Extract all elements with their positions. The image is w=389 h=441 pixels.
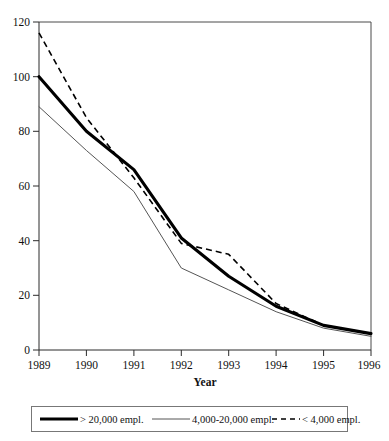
y-tick-label-80: 80 bbox=[19, 125, 31, 137]
x-tick-label-1993: 1993 bbox=[217, 359, 240, 371]
x-tick-label-1996: 1996 bbox=[358, 359, 381, 371]
legend-label-4000-20000: 4,000-20,000 empl. bbox=[192, 414, 274, 425]
series-line-4000-20000 bbox=[39, 107, 371, 337]
y-tick-label-60: 60 bbox=[19, 180, 31, 192]
y-tick-label-20: 20 bbox=[19, 289, 31, 301]
x-tick-label-1989: 1989 bbox=[28, 359, 51, 371]
x-tick-label-1991: 1991 bbox=[122, 359, 145, 371]
x-tick-label-1992: 1992 bbox=[170, 359, 193, 371]
series-line-over-20000 bbox=[39, 77, 371, 334]
plot-frame bbox=[39, 22, 371, 350]
x-tick-label-1994: 1994 bbox=[265, 359, 288, 371]
x-axis-title: Year bbox=[194, 376, 217, 388]
x-tick-label-1990: 1990 bbox=[75, 359, 98, 371]
chart-figure: 120 100 80 60 40 20 0 1989 1990 1991 199… bbox=[0, 0, 389, 441]
x-tick-label-1995: 1995 bbox=[312, 359, 335, 371]
y-tick-label-120: 120 bbox=[13, 16, 31, 28]
line-chart: 120 100 80 60 40 20 0 1989 1990 1991 199… bbox=[0, 0, 389, 441]
series-line-under-4000 bbox=[39, 33, 371, 334]
y-tick-label-40: 40 bbox=[19, 235, 31, 247]
y-tick-label-100: 100 bbox=[13, 71, 31, 83]
legend-label-under-4000: < 4,000 empl. bbox=[302, 414, 360, 425]
legend-label-over-20000: > 20,000 empl. bbox=[80, 414, 144, 425]
y-tick-label-0: 0 bbox=[24, 344, 30, 356]
